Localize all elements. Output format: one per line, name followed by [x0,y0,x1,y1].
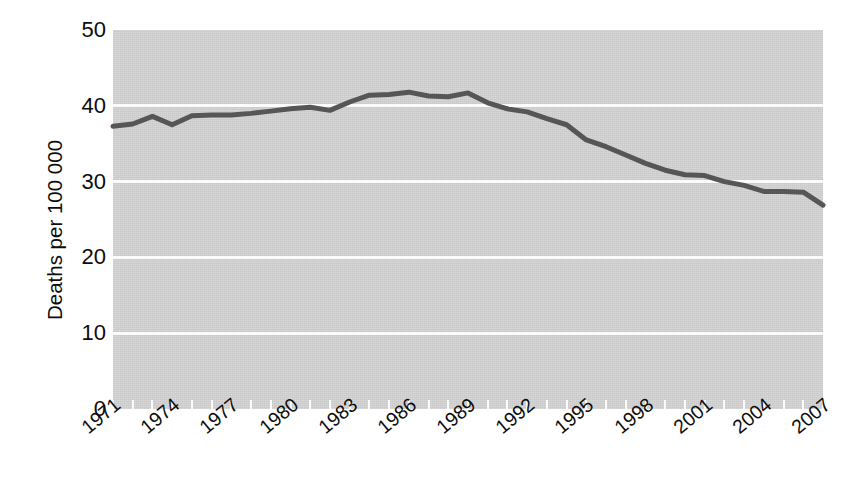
y-tick-label-40: 40 [44,95,106,117]
caption-top-sliver [0,0,853,14]
data-series-line [113,30,823,409]
y-tick-label-20: 20 [44,246,106,268]
caption-bottom-sliver [0,478,853,492]
y-tick-label-10: 10 [44,322,106,344]
y-tick-label-30: 30 [44,171,106,193]
chart-figure: Deaths per 100 000 50403020100 197119741… [0,0,853,495]
plot-area [113,30,823,409]
series-polyline [113,92,823,205]
y-tick-label-50: 50 [44,19,106,41]
